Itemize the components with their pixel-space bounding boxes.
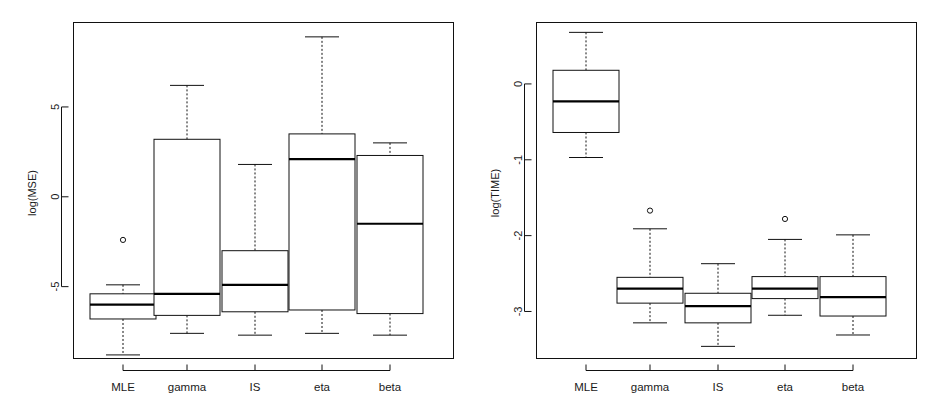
boxplot-svg-mse: log(MSE) 50-5 MLEgammaISetabeta xyxy=(0,0,463,413)
y-tick-label: -5 xyxy=(50,282,62,292)
box-group-mse xyxy=(90,37,423,355)
boxplot-gamma xyxy=(617,208,683,323)
x-tick-label: IS xyxy=(713,381,724,393)
x-tick-label: beta xyxy=(842,381,865,393)
box-iqr xyxy=(289,134,355,310)
x-tick-label: gamma xyxy=(168,381,207,393)
box-iqr xyxy=(752,277,818,299)
boxplot-gamma xyxy=(154,85,220,333)
box-iqr xyxy=(222,251,288,312)
outlier-point xyxy=(120,237,125,242)
x-tick-label: MLE xyxy=(574,381,598,393)
y-tick-label: -2 xyxy=(513,231,525,241)
box-iqr xyxy=(357,155,423,313)
boxplot-beta xyxy=(820,235,886,335)
x-tick-label: MLE xyxy=(111,381,135,393)
box-iqr xyxy=(90,294,156,319)
y-tick-label: 0 xyxy=(50,194,62,200)
y-axis-title-time: log(TIME) xyxy=(489,169,501,217)
boxplot-IS xyxy=(685,264,751,347)
box-iqr xyxy=(685,293,751,323)
outlier-point xyxy=(647,208,652,213)
y-tick-label: -3 xyxy=(513,307,525,317)
y-axis-ticks-mse: 50-5 xyxy=(50,104,69,292)
figure-root: log(MSE) 50-5 MLEgammaISetabeta log(TIME… xyxy=(0,0,926,413)
x-axis-time: MLEgammaISetabeta xyxy=(574,365,865,393)
box-iqr xyxy=(154,139,220,315)
box-group-time xyxy=(553,32,886,346)
x-tick-label: beta xyxy=(379,381,402,393)
boxplot-eta xyxy=(752,216,818,315)
y-axis-ticks-time: 0-1-2-3 xyxy=(513,81,532,316)
boxplot-IS xyxy=(222,164,288,335)
box-iqr xyxy=(617,277,683,303)
y-tick-label: 5 xyxy=(50,104,62,110)
boxplot-beta xyxy=(357,143,423,335)
y-tick-label: -1 xyxy=(513,155,525,165)
boxplot-panel-mse: log(MSE) 50-5 MLEgammaISetabeta xyxy=(0,0,463,413)
boxplot-MLE xyxy=(553,32,619,157)
y-axis-title-mse: log(MSE) xyxy=(26,170,38,216)
x-tick-label: eta xyxy=(314,381,331,393)
boxplot-eta xyxy=(289,37,355,333)
boxplot-MLE xyxy=(90,237,156,355)
y-tick-label: 0 xyxy=(513,81,525,87)
outlier-point xyxy=(782,216,787,221)
x-tick-label: IS xyxy=(250,381,261,393)
x-axis-mse: MLEgammaISetabeta xyxy=(111,365,402,393)
x-tick-label: gamma xyxy=(631,381,670,393)
boxplot-panel-time: log(TIME) 0-1-2-3 MLEgammaISetabeta xyxy=(463,0,926,413)
boxplot-svg-time: log(TIME) 0-1-2-3 MLEgammaISetabeta xyxy=(463,0,926,413)
x-tick-label: eta xyxy=(777,381,794,393)
